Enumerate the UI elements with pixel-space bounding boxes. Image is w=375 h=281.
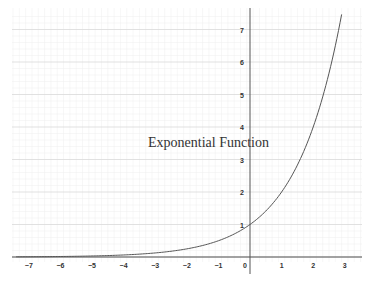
x-tick-label: −7	[25, 262, 33, 269]
x-tick-label: −3	[151, 262, 159, 269]
y-tick-label: 5	[240, 92, 244, 99]
y-tick-label: 4	[240, 124, 244, 131]
x-tick-label: 1	[280, 262, 284, 269]
x-tick-label: −1	[214, 262, 222, 269]
y-tick-label: 7	[240, 27, 244, 34]
y-tick-label: 6	[240, 59, 244, 66]
x-tick-label: −4	[120, 262, 128, 269]
x-tick-label: −6	[56, 262, 64, 269]
x-tick-label: 2	[311, 262, 315, 269]
x-axis-tick-labels: −7−6−5−4−3−2−10123	[25, 262, 347, 269]
x-tick-label: −2	[183, 262, 191, 269]
y-tick-label: 3	[240, 157, 244, 164]
x-tick-label: 3	[343, 262, 347, 269]
x-tick-label: 0	[243, 262, 247, 269]
exponential-chart: −7−6−5−4−3−2−10123 1234567 Exponential F…	[0, 0, 375, 281]
y-tick-label: 1	[240, 222, 244, 229]
y-tick-label: 2	[240, 189, 244, 196]
x-tick-label: −5	[88, 262, 96, 269]
chart-title: Exponential Function	[148, 135, 269, 150]
